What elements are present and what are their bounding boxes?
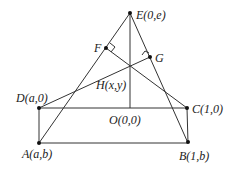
point-e xyxy=(128,11,132,15)
segment-cb xyxy=(187,108,188,143)
point-d xyxy=(37,106,41,110)
segment-dg xyxy=(39,57,150,108)
label-g: G xyxy=(155,51,164,65)
label-h: H(x,y) xyxy=(95,78,126,92)
label-f: F xyxy=(93,41,102,55)
label-d: D(a,0) xyxy=(15,91,48,105)
point-f xyxy=(104,46,108,50)
right-angle-f-icon xyxy=(110,43,115,52)
point-a xyxy=(37,141,41,145)
point-b xyxy=(186,140,190,144)
label-a: A(a,b) xyxy=(21,147,52,161)
label-b: B(1,b) xyxy=(179,149,209,163)
label-c: C(1,0) xyxy=(192,102,223,116)
label-o: O(0,0) xyxy=(109,113,141,127)
point-g xyxy=(148,55,152,59)
geometry-diagram: E(0,e) F G H(x,y) D(a,0) C(1,0) O(0,0) A… xyxy=(0,0,238,171)
label-e: E(0,e) xyxy=(135,8,166,22)
point-c xyxy=(185,106,189,110)
